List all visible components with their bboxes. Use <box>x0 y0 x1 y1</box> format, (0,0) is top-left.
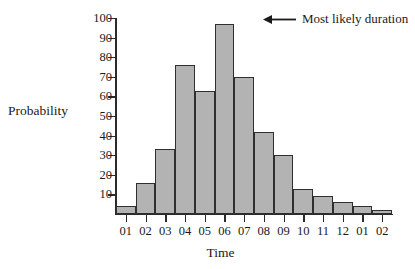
x-axis-tick-label: 11 <box>317 225 329 238</box>
x-axis-tick-label: 01 <box>356 225 369 238</box>
x-axis-title: Time <box>0 245 415 261</box>
x-axis-tick-label: 06 <box>218 225 231 238</box>
y-axis-tick-label: 100 <box>93 12 112 25</box>
x-axis-tick-mark <box>362 214 363 222</box>
x-axis-tick-mark <box>264 214 265 222</box>
x-axis-tick-mark <box>284 214 285 222</box>
left-arrow-icon <box>263 14 297 25</box>
x-axis-tick-mark <box>303 214 304 222</box>
bar <box>353 206 373 214</box>
x-axis-tick-mark <box>146 214 147 222</box>
y-axis-title: Probability <box>8 103 68 119</box>
probability-duration-histogram: Probability 102030405060708090100 010203… <box>0 0 415 269</box>
bar <box>215 24 235 214</box>
x-axis-tick-label: 05 <box>198 225 211 238</box>
y-axis-tick-label: 70 <box>100 71 113 84</box>
x-axis-tick-label: 10 <box>297 225 310 238</box>
x-axis-tick-mark <box>224 214 225 222</box>
bar <box>234 77 254 214</box>
y-axis-tick-label: 80 <box>100 51 113 64</box>
x-axis-tick-mark <box>323 214 324 222</box>
x-axis-tick-mark <box>185 214 186 222</box>
bar <box>175 65 195 214</box>
y-axis-tick-label: 90 <box>100 31 113 44</box>
x-axis-tick-mark <box>343 214 344 222</box>
x-axis-tick-label: 08 <box>258 225 271 238</box>
x-axis-tick-mark <box>382 214 383 222</box>
x-axis-tick-mark <box>126 214 127 222</box>
x-axis-tick-mark <box>165 214 166 222</box>
plot-area: 102030405060708090100 010203040506070809… <box>116 18 392 214</box>
x-axis-tick-label: 01 <box>120 225 133 238</box>
y-axis-tick-label: 40 <box>100 129 113 142</box>
x-axis-tick-mark <box>244 214 245 222</box>
bar <box>254 132 274 214</box>
x-axis-tick-label: 04 <box>179 225 192 238</box>
bar <box>313 196 333 214</box>
bar <box>274 155 294 214</box>
x-axis-tick-label: 02 <box>376 225 389 238</box>
y-axis-tick-label: 20 <box>100 169 113 182</box>
x-axis-tick-label: 12 <box>336 225 349 238</box>
bar <box>333 202 353 214</box>
y-axis-tick-label: 60 <box>100 90 113 103</box>
most-likely-duration-annotation: Most likely duration <box>263 11 408 27</box>
annotation-label: Most likely duration <box>302 11 408 27</box>
bar <box>116 206 136 214</box>
x-axis-tick-mark <box>205 214 206 222</box>
x-axis-tick-label: 07 <box>238 225 251 238</box>
y-axis-tick-label: 10 <box>100 188 113 201</box>
bar <box>195 91 215 214</box>
x-axis-tick-label: 03 <box>159 225 172 238</box>
x-axis-tick-label: 02 <box>139 225 152 238</box>
x-axis-tick-label: 09 <box>277 225 290 238</box>
bar <box>155 149 175 214</box>
bar <box>293 189 313 214</box>
bar <box>136 183 156 214</box>
y-axis-tick-label: 30 <box>100 149 113 162</box>
x-axis-title-text: Time <box>206 245 234 260</box>
y-axis-tick-label: 50 <box>100 110 113 123</box>
